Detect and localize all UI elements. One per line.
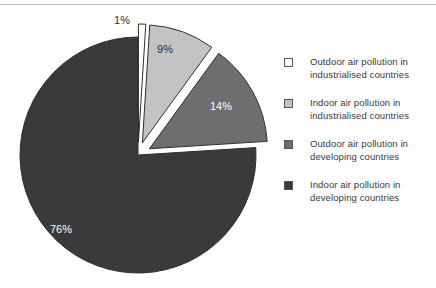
legend-label-outdoor-industrialised: Outdoor air pollution in industrialised … [310,56,409,81]
legend-label-line-2: developing countries [310,192,401,205]
legend-label-line-2: industrialised countries [310,69,409,82]
legend-swatch-outdoor-developing [284,140,293,149]
pie-slices-group [20,24,267,273]
slice-outdoor-developing-percent-label: 14% [210,100,232,112]
legend-item-outdoor-industrialised[interactable]: Outdoor air pollution in industrialised … [284,56,436,81]
pie-chart-svg: 1%9%14%76% [0,0,280,288]
legend-label-indoor-industrialised: Indoor air pollution in industrialised c… [310,97,409,122]
legend-label-line-1: Outdoor air pollution in [310,138,408,151]
chart-legend: Outdoor air pollution in industrialised … [284,56,436,220]
legend-item-indoor-developing[interactable]: Indoor air pollution in developing count… [284,179,436,204]
legend-label-indoor-developing: Indoor air pollution in developing count… [310,179,401,204]
slice-outdoor-industrialised-percent-label: 1% [114,14,130,26]
legend-label-line-1: Indoor air pollution in [310,179,401,192]
legend-label-line-1: Outdoor air pollution in [310,56,409,69]
legend-label-outdoor-developing: Outdoor air pollution in developing coun… [310,138,408,163]
legend-label-line-2: developing countries [310,151,408,164]
legend-item-indoor-industrialised[interactable]: Indoor air pollution in industrialised c… [284,97,436,122]
pie-chart-area: 1%9%14%76% [0,0,280,288]
legend-label-line-2: industrialised countries [310,110,409,123]
legend-swatch-indoor-industrialised [284,99,293,108]
legend-swatch-indoor-developing [284,181,293,190]
legend-swatch-outdoor-industrialised [284,58,293,67]
slice-indoor-industrialised-percent-label: 9% [157,43,173,55]
legend-label-line-1: Indoor air pollution in [310,97,409,110]
pie-chart-figure: 1%9%14%76% Outdoor air pollution in indu… [0,0,436,288]
slice-indoor-developing-percent-label: 76% [50,223,72,235]
legend-item-outdoor-developing[interactable]: Outdoor air pollution in developing coun… [284,138,436,163]
